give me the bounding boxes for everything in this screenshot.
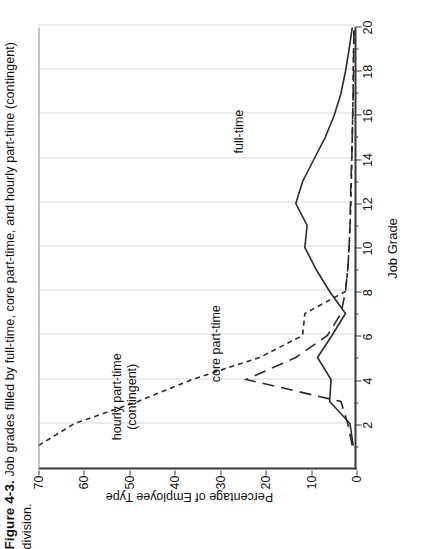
x-tick-mark-1 — [354, 446, 358, 447]
y-tick-mark-30 — [220, 470, 221, 475]
y-tick-mark-0 — [356, 470, 357, 475]
x-tick-mark-14 — [354, 159, 361, 160]
annotation-full-time-text: full-time — [231, 109, 245, 153]
x-tick-mark-15 — [354, 137, 358, 138]
y-tick-mark-20 — [265, 470, 266, 475]
series-line-full-time — [295, 27, 352, 445]
x-tick-mark-7 — [354, 313, 358, 314]
x-tick-label-10: 10 — [360, 241, 374, 255]
x-tick-label-12: 12 — [360, 197, 374, 211]
annotation-full-time: full-time — [231, 109, 245, 153]
figure-number: Figure 4-3. — [1, 480, 16, 549]
x-tick-mark-5 — [354, 358, 358, 359]
x-tick-label-6: 6 — [360, 333, 374, 340]
x-tick-mark-19 — [354, 48, 358, 49]
x-tick-mark-13 — [354, 181, 358, 182]
figure-caption: Figure 4-3. Job grades filled by full-ti… — [0, 0, 35, 549]
y-axis-title: Percentage of Employee Type — [24, 489, 354, 503]
annotation-core-part-time-text: core part-time — [208, 305, 222, 382]
annotation-core-part-time: core part-time — [208, 305, 222, 382]
x-tick-label-8: 8 — [360, 289, 374, 296]
x-tick-mark-18 — [354, 70, 361, 71]
y-tick-mark-10 — [311, 470, 312, 475]
y-tick-mark-40 — [174, 470, 175, 475]
x-tick-label-16: 16 — [360, 108, 374, 122]
x-axis-title: Job Grade — [384, 27, 399, 469]
series-layer — [38, 27, 354, 467]
x-tick-mark-9 — [354, 269, 358, 270]
x-tick-mark-20 — [354, 26, 361, 27]
x-tick-mark-3 — [354, 402, 358, 403]
x-tick-mark-11 — [354, 225, 358, 226]
x-tick-mark-17 — [354, 92, 358, 93]
series-line-core-part-time — [246, 27, 354, 445]
x-tick-mark-12 — [354, 203, 361, 204]
x-tick-mark-10 — [354, 247, 361, 248]
y-tick-mark-70 — [38, 470, 39, 475]
x-tick-label-18: 18 — [360, 64, 374, 78]
x-tick-label-14: 14 — [360, 153, 374, 167]
x-tick-mark-4 — [354, 380, 361, 381]
y-tick-mark-50 — [129, 470, 130, 475]
figure-caption-text: Job grades filled by full-time, core par… — [2, 41, 16, 476]
x-tick-mark-16 — [354, 114, 361, 115]
x-tick-mark-6 — [354, 335, 361, 336]
chart: full-time core part-time hourly part-tim… — [36, 18, 408, 515]
plot-area: full-time core part-time hourly part-tim… — [38, 27, 356, 469]
x-tick-label-4: 4 — [360, 377, 374, 384]
x-tick-mark-2 — [354, 424, 361, 425]
y-tick-mark-60 — [83, 470, 84, 475]
line-series-svg — [38, 27, 354, 467]
x-tick-label-20: 20 — [360, 20, 374, 34]
annotation-hourly-part-time-line2: (contingent) — [124, 363, 138, 429]
x-tick-label-2: 2 — [360, 421, 374, 428]
figure-page: Figure 4-3. Job grades filled by full-ti… — [0, 0, 425, 549]
gridline-x-20 — [38, 24, 354, 25]
annotation-hourly-part-time: hourly part-time (contingent) — [110, 353, 139, 440]
annotation-hourly-part-time-line1: hourly part-time — [110, 353, 124, 440]
rotated-figure-container: Figure 4-3. Job grades filled by full-ti… — [0, 0, 425, 549]
figure-caption-text-line2: division. — [18, 0, 35, 549]
x-tick-mark-8 — [354, 291, 361, 292]
